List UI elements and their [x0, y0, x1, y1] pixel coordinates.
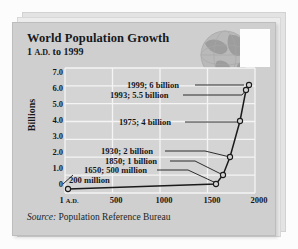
annotation-label: 1850; 1 billion: [105, 156, 157, 166]
annotation-label: 1930; 2 billion: [101, 146, 153, 156]
annotation-label: 1993; 5.5 billion: [110, 90, 169, 100]
data-point: [237, 118, 242, 123]
chart-screenshot: World Population Growth 1 A.D. to 1999: [0, 0, 298, 249]
plot-area: Billions 7.0 6.0 5.0 4.0 3.0 2.0 1.0 0 1…: [13, 23, 275, 235]
source-line: Source: Population Reference Bureau: [27, 212, 170, 222]
annotation-label: 1650; 500 million: [84, 165, 147, 175]
data-point: [65, 186, 70, 191]
data-point: [220, 172, 225, 177]
annotation-label: 200 million: [69, 175, 110, 185]
data-point: [246, 82, 251, 87]
chart-canvas: [13, 23, 275, 235]
annotation-label: 1999; 6 billion: [127, 80, 179, 90]
source-text: Population Reference Bureau: [59, 212, 171, 222]
data-point: [213, 181, 218, 186]
source-label: Source:: [27, 212, 56, 222]
annotation-label: 1975; 4 billion: [119, 117, 171, 127]
chart-card: World Population Growth 1 A.D. to 1999: [12, 22, 276, 236]
data-point: [243, 87, 248, 92]
data-point: [227, 154, 232, 159]
